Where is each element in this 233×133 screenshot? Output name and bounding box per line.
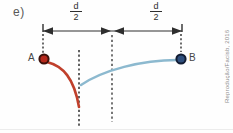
bottom-edge-divider: [0, 129, 233, 130]
trajectory-a-curve: [47, 62, 79, 107]
figure-option-e-diagram: e) d 2 d 2 A B Reprodução/Facisb,: [0, 0, 233, 133]
arrowhead-right-icon: [172, 27, 182, 35]
credit-text: Reprodução/Facisb, 2016: [224, 0, 230, 133]
point-b-label: B: [189, 52, 196, 63]
trajectory-b-curve: [81, 60, 177, 85]
point-a-label: A: [28, 52, 35, 63]
point-a-marker: [39, 54, 48, 63]
arrowhead-middle-left-icon: [114, 27, 124, 35]
point-b-marker: [176, 54, 185, 63]
arrowhead-left-icon: [43, 27, 53, 35]
arrowhead-middle-right-icon: [101, 27, 111, 35]
diagram-canvas: [0, 0, 233, 133]
